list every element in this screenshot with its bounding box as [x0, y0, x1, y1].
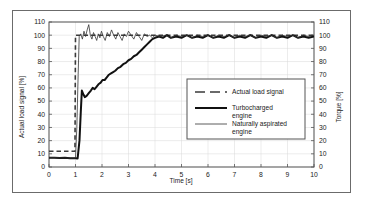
y-tick-label-60: 60 — [37, 84, 45, 91]
y2-tick-label-100: 100 — [319, 32, 331, 39]
y2-tick-label-0: 0 — [319, 163, 323, 170]
legend-label-0: Actual load signal — [232, 88, 284, 96]
legend-label-2: engine — [232, 128, 252, 136]
x-tick-label-10: 10 — [310, 171, 318, 178]
figure-frame: 0010102020303040405050606070708080909010… — [12, 10, 351, 193]
x-tick-label-4: 4 — [153, 171, 157, 178]
x-tick-label-8: 8 — [259, 171, 263, 178]
y-tick-label-10: 10 — [37, 150, 45, 157]
y2-tick-label-10: 10 — [319, 150, 327, 157]
y2-tick-label-40: 40 — [319, 111, 327, 118]
y2-tick-label-80: 80 — [319, 58, 327, 65]
x-axis-title: Time [s] — [170, 177, 193, 185]
legend-label-1: Turbocharged — [232, 104, 273, 112]
y2-axis-title: Torque [%] — [335, 91, 343, 122]
y-tick-label-110: 110 — [34, 18, 45, 25]
y2-tick-label-20: 20 — [319, 137, 327, 144]
y-tick-label-80: 80 — [37, 58, 45, 65]
y2-tick-label-110: 110 — [319, 18, 330, 25]
y-tick-label-100: 100 — [34, 32, 46, 39]
x-tick-label-9: 9 — [286, 171, 290, 178]
legend-box: Actual load signalTurbochargedengineNatu… — [187, 79, 305, 139]
x-tick-label-6: 6 — [206, 171, 210, 178]
x-tick-label-1: 1 — [74, 171, 78, 178]
y2-tick-label-60: 60 — [319, 84, 327, 91]
y-tick-label-30: 30 — [37, 124, 45, 131]
y2-tick-label-50: 50 — [319, 97, 327, 104]
x-tick-label-2: 2 — [100, 171, 104, 178]
x-tick-label-7: 7 — [233, 171, 237, 178]
x-tick-label-3: 3 — [127, 171, 131, 178]
y2-tick-label-70: 70 — [319, 71, 327, 78]
engine-load-step-response-chart: 0010102020303040405050606070708080909010… — [13, 11, 350, 192]
y-tick-label-40: 40 — [37, 111, 45, 118]
legend-label-2: Naturally aspirated — [232, 120, 287, 128]
y-tick-label-20: 20 — [37, 137, 45, 144]
y2-tick-label-30: 30 — [319, 124, 327, 131]
x-tick-label-0: 0 — [47, 171, 51, 178]
y-tick-label-70: 70 — [37, 71, 45, 78]
y-tick-label-50: 50 — [37, 97, 45, 104]
y-axis-title: Actual load signal [%] — [18, 76, 26, 138]
y-tick-label-90: 90 — [37, 45, 45, 52]
legend-label-1: engine — [232, 112, 252, 120]
y2-tick-label-90: 90 — [319, 45, 327, 52]
y-tick-label-0: 0 — [41, 163, 45, 170]
